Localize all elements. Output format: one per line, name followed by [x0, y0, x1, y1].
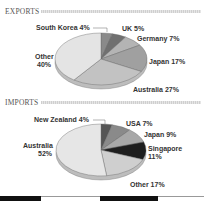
imports-label-usa: USA 7%	[126, 120, 153, 127]
exports-label-south-korea: South Korea 4%	[36, 24, 90, 31]
imports-label-australia-pct: 52%	[38, 150, 53, 157]
exports-leader-line	[93, 28, 107, 32]
exports-label-other: Other	[35, 53, 54, 60]
exports-label-australia: Australia 27%	[133, 86, 180, 93]
exports-label-uk: UK 5%	[122, 25, 145, 32]
strip-block-1	[0, 196, 41, 201]
imports-label-new-zealand: New Zealand 4%	[34, 116, 90, 123]
imports-pie-chart: New Zealand 4% USA 7% Japan 9% Singapore…	[0, 106, 204, 196]
imports-label-singapore: Singapore	[148, 145, 182, 153]
imports-label-japan: Japan 9%	[144, 131, 177, 139]
exports-pie-chart: South Korea 4% UK 5% Germany 7% Japan 17…	[0, 12, 204, 102]
strip-block-3	[100, 196, 158, 201]
strip-block-4	[158, 196, 204, 201]
imports-label-australia: Australia	[23, 142, 53, 149]
exports-label-japan: Japan 17%	[149, 58, 186, 66]
bottom-strip	[0, 196, 204, 201]
exports-pie-slices	[55, 33, 147, 85]
imports-leader-line	[93, 120, 105, 124]
imports-label-singapore-pct: 11%	[148, 153, 162, 160]
imports-label-other: Other 17%	[130, 181, 165, 188]
exports-label-other-pct: 40%	[37, 61, 52, 68]
exports-label-germany: Germany 7%	[137, 35, 180, 43]
strip-block-2	[41, 196, 100, 201]
imports-rule	[41, 101, 201, 104]
imports-pie-slices	[56, 124, 146, 176]
